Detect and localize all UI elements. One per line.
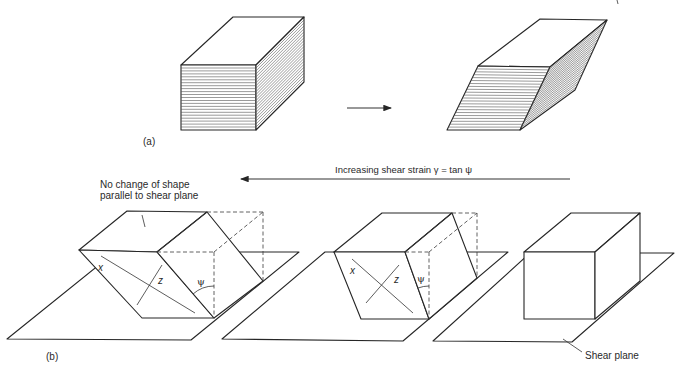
stage-undeformed: Shear plane <box>433 213 674 361</box>
diagram-canvas: (a) Increasing shear strain γ = tan ψ No… <box>0 0 684 366</box>
shear-strain-caption: Increasing shear strain γ = tan ψ <box>335 164 472 175</box>
shear-plane-label: Shear plane <box>585 350 639 361</box>
axis-z-label: z <box>393 274 399 285</box>
panel-b: Increasing shear strain γ = tan ψ No cha… <box>7 164 674 362</box>
axis-z-label: z <box>157 275 163 286</box>
shear-angle-label: ψ <box>417 273 425 284</box>
panel-a-label: (a) <box>143 136 155 147</box>
layered-block-undeformed <box>181 17 304 130</box>
axis-x-label: x <box>349 265 356 276</box>
panel-b-label: (b) <box>46 351 58 362</box>
axis-x-label: x <box>97 262 104 273</box>
annotation-line-2: parallel to shear plane <box>100 190 199 201</box>
annotation-line-1: No change of shape <box>100 179 190 190</box>
shear-angle-label: ψ <box>197 276 205 287</box>
shear-strain-diagram: (a) Increasing shear strain γ = tan ψ No… <box>0 0 684 366</box>
page-edge-artifact <box>617 0 618 4</box>
layered-block-sheared <box>447 19 607 130</box>
block-3-front-face <box>524 252 595 319</box>
panel-a: (a) <box>143 17 607 147</box>
